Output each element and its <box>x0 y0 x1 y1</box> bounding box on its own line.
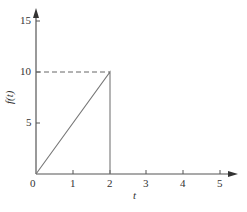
y-axis-label: f(t) <box>4 91 15 104</box>
y-axis-arrow-icon <box>33 8 39 18</box>
x-tick-5: 5 <box>217 178 223 189</box>
plot-area <box>0 0 247 212</box>
x-tick-1: 1 <box>70 178 76 189</box>
x-tick-2: 2 <box>107 178 113 189</box>
x-axis-label: t <box>133 190 136 201</box>
x-tick-3: 3 <box>143 178 149 189</box>
y-tick-5: 5 <box>26 117 32 128</box>
x-tick-4: 4 <box>180 178 186 189</box>
y-tick-15: 15 <box>20 15 31 26</box>
origin-label: 0 <box>30 178 36 189</box>
x-axis-arrow-icon <box>228 171 238 177</box>
function-line <box>36 72 110 174</box>
y-tick-10: 10 <box>20 66 31 77</box>
